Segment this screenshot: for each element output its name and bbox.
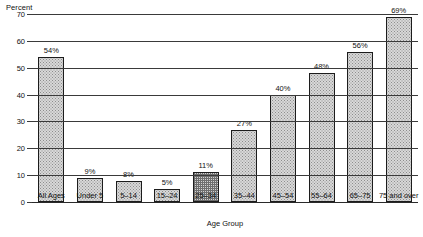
bar-value-label: 8%: [123, 170, 134, 179]
bar-65–75: [347, 52, 373, 202]
y-tick-label-50: 50: [17, 63, 25, 72]
x-axis-title: Age Group: [32, 219, 418, 228]
bar-value-label: 5%: [162, 178, 173, 187]
bar-all-ages: [38, 57, 64, 202]
bar-value-label: 27%: [237, 119, 252, 128]
bar-group: 56%: [347, 14, 373, 202]
y-tick-0: [27, 202, 32, 203]
bar-55–64: [309, 73, 335, 202]
y-tick-label-10: 10: [17, 171, 25, 180]
bar-group: 8%: [116, 14, 142, 202]
bar-value-label: 9%: [84, 167, 95, 176]
x-tick-label: 75 and over: [379, 191, 419, 200]
bar-group: 40%: [270, 14, 296, 202]
bar-value-label: 48%: [314, 62, 329, 71]
bar-group: 9%: [77, 14, 103, 202]
y-tick-label-20: 20: [17, 144, 25, 153]
bar-value-label: 11%: [198, 161, 212, 170]
x-tick-label: 25–34: [195, 191, 216, 200]
bar-group: 5%: [154, 14, 180, 202]
bar-75-and-over: [386, 17, 412, 202]
bar-value-label: 69%: [391, 6, 406, 15]
bar-group: 54%: [38, 14, 64, 202]
y-tick-label-70: 70: [17, 10, 25, 19]
x-tick-label: 65–75: [350, 191, 371, 200]
bar-value-label: 54%: [44, 46, 59, 55]
gridline-0: [32, 202, 418, 203]
bar-group: 69%: [386, 14, 412, 202]
x-tick-label: 35–44: [234, 191, 255, 200]
bar-value-label: 40%: [275, 84, 290, 93]
y-tick-label-0: 0: [21, 198, 25, 207]
y-tick-label-40: 40: [17, 90, 25, 99]
bar-group: 27%: [231, 14, 257, 202]
x-tick-label: 45–54: [272, 191, 293, 200]
bar-group: 48%: [309, 14, 335, 202]
x-tick-label: All Ages: [38, 191, 65, 200]
plot-area: 54%9%8%5%11%27%40%48%56%69% 010203040506…: [32, 14, 418, 202]
bar-value-label: 56%: [353, 41, 368, 50]
x-tick-label: Under 5: [77, 191, 104, 200]
y-tick-label-60: 60: [17, 36, 25, 45]
x-tick-label: 5–14: [120, 191, 137, 200]
bar-45–54: [270, 95, 296, 202]
bar-chart: Percent 54%9%8%5%11%27%40%48%56%69% 0102…: [0, 0, 423, 237]
y-tick-label-30: 30: [17, 117, 25, 126]
x-tick-label: 15–24: [157, 191, 178, 200]
x-tick-label: 55–64: [311, 191, 332, 200]
bars-layer: 54%9%8%5%11%27%40%48%56%69%: [32, 14, 418, 202]
bar-group: 11%: [193, 14, 219, 202]
